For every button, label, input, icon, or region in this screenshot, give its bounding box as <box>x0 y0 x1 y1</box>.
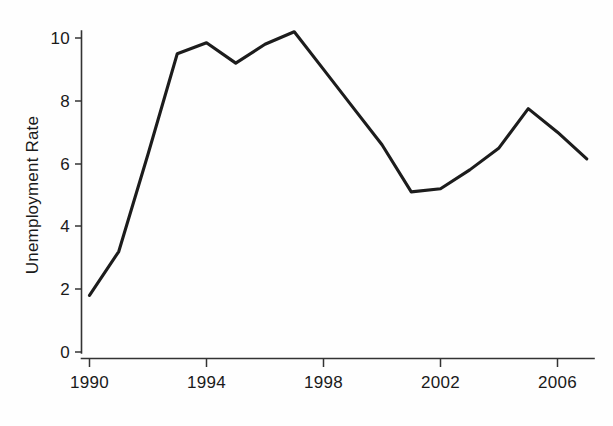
line-chart: 10 8 6 4 2 0 1990 1994 1998 2002 2006 Un… <box>0 0 613 426</box>
data-series-unemployment-rate <box>90 32 587 296</box>
x-tick-label-1990: 1990 <box>70 373 109 392</box>
y-tick-label-2: 2 <box>60 280 70 299</box>
x-tick-label-1998: 1998 <box>304 373 343 392</box>
x-tick-label-2002: 2002 <box>421 373 460 392</box>
y-tick-label-4: 4 <box>60 217 70 236</box>
x-tick-label-2006: 2006 <box>538 373 577 392</box>
x-axis-ticks <box>90 359 558 367</box>
chart-figure: 10 8 6 4 2 0 1990 1994 1998 2002 2006 Un… <box>0 0 613 426</box>
x-tick-label-1994: 1994 <box>187 373 226 392</box>
y-tick-label-8: 8 <box>60 92 70 111</box>
y-tick-label-6: 6 <box>60 155 70 174</box>
y-tick-label-0: 0 <box>60 343 70 362</box>
y-tick-label-10: 10 <box>50 29 70 48</box>
y-axis-title: Unemployment Rate <box>23 116 42 274</box>
